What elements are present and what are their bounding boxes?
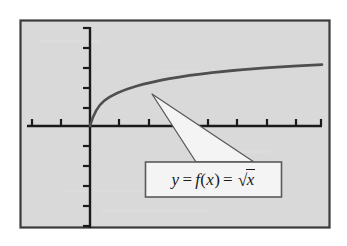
function-label: y = f ( x ) = √x	[147, 164, 280, 196]
label-equals-1: =	[179, 170, 195, 190]
graph-canvas	[0, 0, 347, 246]
label-equals-2: =	[220, 170, 236, 190]
figure-container: y = f ( x ) = √x	[0, 0, 347, 246]
label-y: y	[172, 170, 180, 190]
label-x-arg: x	[206, 170, 214, 190]
radical-group: √x	[238, 170, 256, 191]
label-radicand: x	[246, 169, 256, 190]
